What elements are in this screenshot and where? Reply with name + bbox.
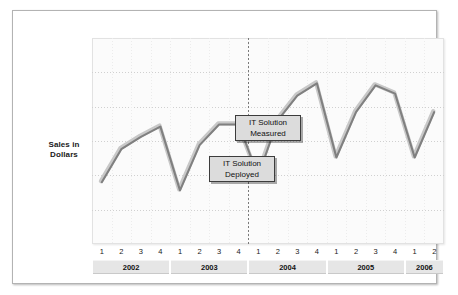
x-axis: 123412341234123412 20022003200420052006 — [92, 246, 444, 282]
year-band-2003: 2003 — [171, 260, 247, 274]
x-tick-quarter: 3 — [135, 246, 147, 258]
chart-svg — [92, 38, 444, 244]
y-axis-label: Sales in Dollars — [35, 140, 93, 160]
quarter-tick-row: 123412341234123412 — [92, 246, 444, 259]
year-band-2005: 2005 — [328, 260, 404, 274]
callout-it-solution-measured: IT SolutionMeasured — [235, 115, 301, 141]
x-tick-quarter: 2 — [194, 246, 206, 258]
year-band-row: 20022003200420052006 — [92, 260, 444, 274]
callout-line2: Measured — [241, 129, 295, 140]
x-tick-quarter: 2 — [115, 246, 127, 258]
y-axis-label-line2: Dollars — [50, 150, 78, 159]
x-tick-quarter: 2 — [428, 246, 440, 258]
x-tick-quarter: 3 — [370, 246, 382, 258]
x-tick-quarter: 1 — [174, 246, 186, 258]
x-tick-quarter: 3 — [213, 246, 225, 258]
x-tick-quarter: 1 — [409, 246, 421, 258]
year-band-2002: 2002 — [93, 260, 169, 274]
x-tick-quarter: 2 — [350, 246, 362, 258]
x-tick-quarter: 1 — [330, 246, 342, 258]
year-band-2004: 2004 — [249, 260, 325, 274]
callout-line2: Deployed — [215, 170, 269, 181]
callout-line1: IT Solution — [241, 118, 295, 129]
y-axis-label-line1: Sales in — [48, 140, 79, 149]
x-tick-quarter: 4 — [233, 246, 245, 258]
plot-area — [92, 38, 444, 244]
x-tick-quarter: 4 — [311, 246, 323, 258]
x-tick-quarter: 3 — [291, 246, 303, 258]
x-tick-quarter: 4 — [389, 246, 401, 258]
x-tick-quarter: 1 — [252, 246, 264, 258]
callout-it-solution-deployed: IT SolutionDeployed — [209, 156, 275, 182]
x-tick-quarter: 1 — [96, 246, 108, 258]
year-band-2006: 2006 — [406, 260, 443, 274]
chart-frame: Sales in Dollars 123412341234123412 2002… — [12, 10, 437, 284]
callout-line1: IT Solution — [215, 159, 269, 170]
x-tick-quarter: 4 — [154, 246, 166, 258]
x-tick-quarter: 2 — [272, 246, 284, 258]
